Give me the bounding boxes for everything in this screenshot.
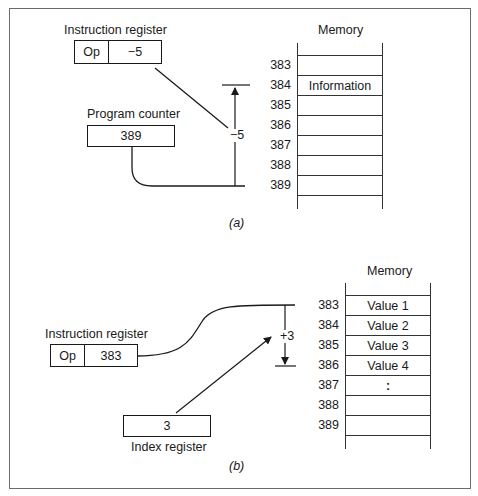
opcode-field: Op xyxy=(51,345,85,366)
program-counter: 389 xyxy=(87,125,175,147)
memory-title: Memory xyxy=(367,265,412,278)
memory-cell xyxy=(346,415,430,436)
memory-cell-ellipsis: : xyxy=(346,375,430,395)
memory-cell xyxy=(298,55,382,75)
memory-address: 387 xyxy=(261,139,291,152)
memory-address: 386 xyxy=(309,359,339,372)
memory-address: 388 xyxy=(309,399,339,412)
memory-address: 385 xyxy=(261,99,291,112)
memory-address: 387 xyxy=(309,379,339,392)
memory-title: Memory xyxy=(318,24,363,37)
offset-label: +3 xyxy=(279,330,295,343)
memory-cell: Value 4 xyxy=(346,355,430,375)
instruction-register-label: Instruction register xyxy=(64,24,167,37)
memory-address: 384 xyxy=(309,319,339,332)
memory-address: 383 xyxy=(261,59,291,72)
memory-address: 386 xyxy=(261,119,291,132)
memory-cell xyxy=(298,155,382,175)
memory-address: 389 xyxy=(261,179,291,192)
opcode-field: Op xyxy=(75,41,109,63)
memory-cell xyxy=(298,175,382,196)
memory-table: Information xyxy=(297,43,383,209)
memory-address: 385 xyxy=(309,339,339,352)
memory-address: 389 xyxy=(309,419,339,432)
instruction-register: Op 383 xyxy=(50,344,138,367)
instruction-register: Op −5 xyxy=(74,40,162,64)
memory-address: 383 xyxy=(309,299,339,312)
memory-cell xyxy=(346,395,430,415)
memory-cell xyxy=(298,115,382,135)
program-counter-label: Program counter xyxy=(87,108,180,121)
operand-field: −5 xyxy=(109,41,161,63)
memory-cell: Value 2 xyxy=(346,315,430,335)
memory-cell xyxy=(298,135,382,155)
offset-label: −5 xyxy=(229,129,245,142)
instruction-register-label: Instruction register xyxy=(45,328,148,341)
memory-cell: Value 1 xyxy=(346,295,430,315)
memory-cell xyxy=(298,95,382,115)
memory-cell: Information xyxy=(298,75,382,95)
memory-cell: Value 3 xyxy=(346,335,430,355)
index-register: 3 xyxy=(123,415,211,437)
memory-address: 388 xyxy=(261,159,291,172)
memory-table: Value 1 Value 2 Value 3 Value 4 : xyxy=(345,283,431,449)
operand-field: 383 xyxy=(85,345,137,366)
caption-b: (b) xyxy=(229,459,244,473)
caption-a: (a) xyxy=(229,216,244,230)
index-register-label: Index register xyxy=(131,441,207,454)
memory-address: 384 xyxy=(261,79,291,92)
